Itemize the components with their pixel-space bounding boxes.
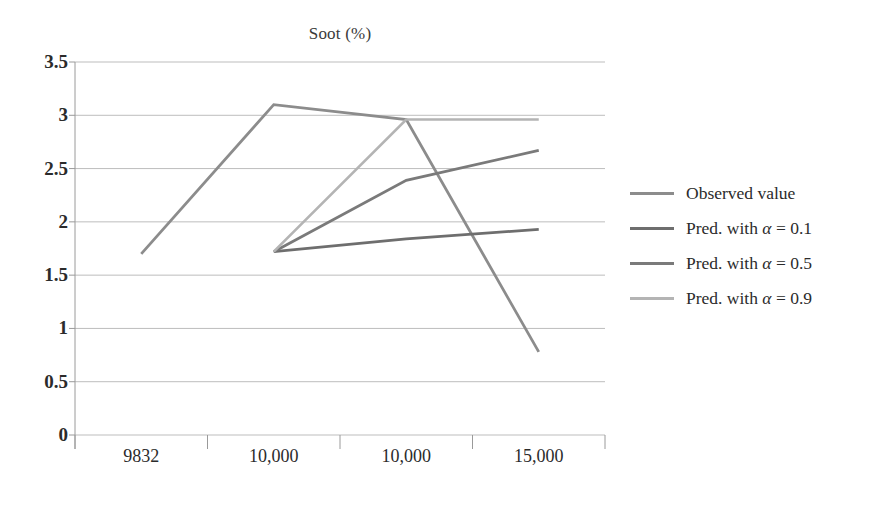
y-tick-label: 3.5	[10, 51, 68, 73]
y-tick-label: 0.5	[10, 371, 68, 393]
legend-item-label: Pred. with α = 0.9	[686, 288, 812, 309]
x-tick-label: 10,000	[382, 446, 432, 467]
legend-item[interactable]: Pred. with α = 0.1	[630, 211, 870, 246]
series-line-0	[141, 105, 539, 352]
legend-line-swatch	[630, 227, 674, 230]
y-tick-label: 0	[10, 424, 68, 446]
legend-item-label: Pred. with α = 0.5	[686, 253, 812, 274]
y-tick-label: 2	[10, 211, 68, 233]
legend-item[interactable]: Pred. with α = 0.5	[630, 246, 870, 281]
legend-item-label: Observed value	[686, 183, 795, 204]
legend-item[interactable]: Pred. with α = 0.9	[630, 281, 870, 316]
x-tick-label: 9832	[123, 446, 159, 467]
legend-line-swatch	[630, 192, 674, 195]
legend-item-label: Pred. with α = 0.1	[686, 218, 812, 239]
series-line-1	[274, 229, 539, 251]
y-tick-label: 1.5	[10, 264, 68, 286]
series-lines	[141, 105, 539, 352]
chart-title: Soot (%)	[230, 24, 450, 44]
x-tick-label: 10,000	[249, 446, 299, 467]
legend-line-swatch	[630, 297, 674, 300]
y-tick-label: 2.5	[10, 158, 68, 180]
chart-container: Soot (%) 00.511.522.533.5 983210,00010,0…	[0, 0, 872, 505]
y-axis-tick-labels: 00.511.522.533.5	[0, 0, 68, 505]
y-tick-label: 1	[10, 317, 68, 339]
legend-item[interactable]: Observed value	[630, 176, 870, 211]
x-tick-label: 15,000	[514, 446, 564, 467]
chart-legend: Observed valuePred. with α = 0.1Pred. wi…	[630, 176, 870, 316]
gridlines	[75, 62, 605, 435]
legend-line-swatch	[630, 262, 674, 265]
y-tick-label: 3	[10, 104, 68, 126]
series-line-2	[274, 150, 539, 251]
